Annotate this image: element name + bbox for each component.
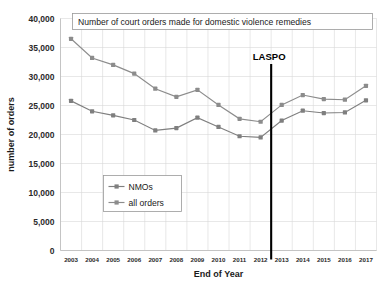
x-axis-tick-label: 2005 [106, 256, 120, 263]
data-point-marker [343, 110, 347, 114]
legend-item-label: all orders [129, 198, 164, 208]
y-axis-title-text: number of orders [6, 97, 16, 172]
data-point-marker [322, 111, 326, 115]
y-axis-tick-label: 35,000 [29, 43, 55, 53]
x-axis-tick-label: 2003 [64, 256, 78, 263]
data-point-marker [301, 109, 305, 113]
y-axis-tick-labels: 05,00010,00015,00020,00025,00030,00035,0… [29, 14, 55, 256]
data-point-marker [153, 87, 157, 91]
grid-lines [61, 19, 377, 251]
data-point-marker [280, 118, 284, 122]
x-axis-tick-label: 2007 [148, 256, 162, 263]
x-axis-tick-label: 2012 [254, 256, 268, 263]
series-all-orders [69, 37, 368, 124]
data-point-marker [195, 116, 199, 120]
data-point-marker [364, 84, 368, 88]
x-axis-tick-label: 2004 [85, 256, 99, 263]
laspo-event-label: LASPO [253, 51, 286, 62]
data-point-marker [259, 120, 263, 124]
data-point-marker [132, 72, 136, 76]
x-axis-title-text: End of Year [194, 269, 244, 279]
x-axis-tick-label: 2011 [233, 256, 247, 263]
x-axis-tick-label: 2014 [296, 256, 310, 263]
series-line [71, 39, 366, 122]
legend-swatch-marker [115, 200, 119, 204]
data-point-marker [364, 98, 368, 102]
data-point-marker [216, 103, 220, 107]
data-point-marker [174, 95, 178, 99]
y-axis-tick-label: 0 [50, 246, 55, 256]
x-axis-tick-label: 2016 [338, 256, 352, 263]
y-axis-tick-label: 25,000 [29, 101, 55, 111]
data-point-marker [216, 125, 220, 129]
data-point-marker [322, 97, 326, 101]
x-axis-tick-label: 2013 [275, 256, 289, 263]
data-point-marker [132, 118, 136, 122]
x-axis-tick-label: 2010 [212, 256, 226, 263]
legend-item-label: NMOs [129, 182, 153, 192]
data-point-marker [259, 135, 263, 139]
data-point-marker [343, 98, 347, 102]
data-point-marker [90, 109, 94, 113]
x-axis-tick-labels: 2003200420052006200720082009201020112012… [64, 256, 373, 263]
x-axis-tick-label: 2008 [169, 256, 183, 263]
y-axis-tick-label: 40,000 [29, 14, 55, 24]
data-point-marker [280, 103, 284, 107]
data-point-marker [111, 113, 115, 117]
y-axis-tick-label: 30,000 [29, 72, 55, 82]
data-point-marker [237, 134, 241, 138]
y-axis-tick-label: 20,000 [29, 130, 55, 140]
data-point-marker [301, 93, 305, 97]
data-point-marker [69, 99, 73, 103]
chart-title-text: Number of court orders made for domestic… [78, 17, 311, 27]
data-point-marker [111, 63, 115, 67]
x-axis-tick-label: 2017 [359, 256, 373, 263]
x-axis-tick-label: 2009 [191, 256, 205, 263]
legend-swatch-marker [115, 184, 119, 188]
y-axis-tick-label: 10,000 [29, 188, 55, 198]
data-point-marker [69, 37, 73, 41]
line-chart: 05,00010,00015,00020,00025,00030,00035,0… [0, 0, 383, 288]
x-axis-tick-label: 2006 [127, 256, 141, 263]
data-point-marker [90, 56, 94, 60]
data-point-marker [195, 88, 199, 92]
data-point-marker [153, 128, 157, 132]
y-axis-tick-label: 15,000 [29, 159, 55, 169]
y-axis-tick-label: 5,000 [33, 217, 55, 227]
chart-legend: NMOsall orders [104, 176, 182, 212]
chart-title-box: Number of court orders made for domestic… [73, 14, 373, 30]
data-point-marker [174, 126, 178, 130]
data-point-marker [237, 117, 241, 121]
chart-container: 05,00010,00015,00020,00025,00030,00035,0… [0, 0, 383, 288]
x-axis-tick-label: 2015 [317, 256, 331, 263]
laspo-annotation: LASPO [253, 51, 286, 260]
